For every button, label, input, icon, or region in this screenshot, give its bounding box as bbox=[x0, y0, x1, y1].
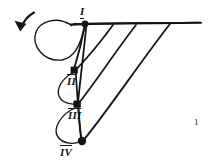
hand-drawn-graph-figure bbox=[0, 0, 208, 164]
straight-edges-group bbox=[75, 24, 170, 139]
node-label-IV: IV bbox=[60, 145, 72, 158]
node-label-III: III bbox=[68, 108, 81, 121]
corner-mark: 1 bbox=[194, 117, 199, 127]
rotation-arrow-group bbox=[15, 13, 34, 32]
node-dot-III bbox=[73, 100, 80, 107]
node-dot-I bbox=[82, 21, 89, 28]
node-label-I: I bbox=[80, 6, 84, 19]
node-dot-IV bbox=[78, 137, 86, 145]
node-label-II: II bbox=[67, 74, 76, 87]
node-dot-II bbox=[71, 66, 78, 73]
diagram-canvas: I II III IV 1 bbox=[0, 0, 208, 164]
edge-baseline2-to-III bbox=[80, 25, 136, 102]
edge-baseline3-to-IV bbox=[84, 24, 170, 139]
arc-I-big-left-loop bbox=[35, 20, 85, 60]
